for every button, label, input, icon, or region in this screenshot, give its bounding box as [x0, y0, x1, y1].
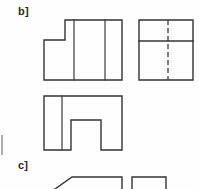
front-view	[44, 20, 122, 80]
problem-c-chamfered-outline	[55, 177, 122, 189]
problem-c-rectangle-outline	[132, 177, 166, 189]
problem-label-c: c]	[18, 160, 28, 171]
top-view	[44, 96, 122, 150]
top-view-outline	[44, 96, 122, 150]
problem-label-b: b]	[18, 6, 29, 17]
side-view-outline	[139, 20, 193, 80]
orthographic-drawing-canvas	[0, 0, 199, 189]
drawing-sheet: b] c]	[0, 0, 199, 189]
side-view	[139, 20, 193, 80]
problem-c-partial-views	[55, 177, 166, 189]
front-view-outline	[44, 20, 122, 80]
